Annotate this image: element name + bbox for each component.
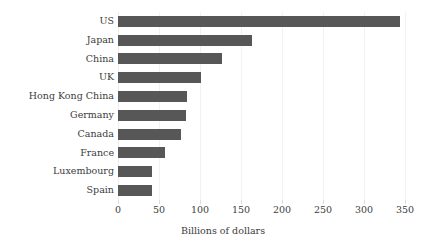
- plot-area: [118, 12, 405, 200]
- bar-row: [118, 87, 405, 106]
- x-tick-label-150: 150: [232, 204, 250, 215]
- category-label-spain: Spain: [0, 181, 114, 200]
- x-tick-label-100: 100: [191, 204, 209, 215]
- x-axis-title-label: Billions of dollars: [181, 225, 265, 236]
- bar-luxembourg[interactable]: [118, 166, 152, 177]
- category-label-germany: Germany: [0, 106, 114, 125]
- bar-row: [118, 106, 405, 125]
- bar-germany[interactable]: [118, 110, 186, 121]
- category-label-canada: Canada: [0, 125, 114, 144]
- category-label-japan: Japan: [0, 31, 114, 50]
- bar-row: [118, 31, 405, 50]
- bar-row: [118, 181, 405, 200]
- x-tick-label-200: 200: [273, 204, 291, 215]
- category-label-luxembourg: Luxembourg: [0, 162, 114, 181]
- x-axis: 050100150200250300350: [118, 200, 405, 216]
- x-tick-label-50: 50: [153, 204, 165, 215]
- bar-row: [118, 125, 405, 144]
- x-tick-label-250: 250: [314, 204, 332, 215]
- bar-china[interactable]: [118, 53, 222, 64]
- category-label-china: China: [0, 50, 114, 69]
- bar-row: [118, 12, 405, 31]
- bar-chart: USJapanChinaUKHong Kong ChinaGermanyCana…: [0, 0, 428, 247]
- x-tick-label-0: 0: [115, 204, 121, 215]
- bar-us[interactable]: [118, 16, 400, 27]
- category-axis-labels: USJapanChinaUKHong Kong ChinaGermanyCana…: [0, 12, 114, 200]
- bar-row: [118, 50, 405, 69]
- gridline-350: [405, 12, 406, 200]
- bar-canada[interactable]: [118, 129, 181, 140]
- category-label-france: France: [0, 144, 114, 163]
- bar-spain[interactable]: [118, 185, 152, 196]
- bar-row: [118, 144, 405, 163]
- x-tick-label-300: 300: [355, 204, 373, 215]
- bar-japan[interactable]: [118, 35, 252, 46]
- bar-row: [118, 68, 405, 87]
- bar-france[interactable]: [118, 147, 165, 158]
- bar-hong-kong-china[interactable]: [118, 91, 187, 102]
- x-axis-title: Billions of dollars: [0, 225, 428, 236]
- category-label-us: US: [0, 12, 114, 31]
- category-label-uk: UK: [0, 68, 114, 87]
- x-tick-label-350: 350: [396, 204, 414, 215]
- bar-uk[interactable]: [118, 72, 201, 83]
- category-label-hong-kong-china: Hong Kong China: [0, 87, 114, 106]
- bar-row: [118, 162, 405, 181]
- bar-rows: [118, 12, 405, 200]
